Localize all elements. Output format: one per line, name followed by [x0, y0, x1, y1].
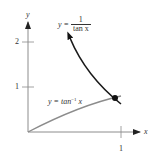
- y-axis-label: y: [26, 11, 30, 19]
- x-axis-label: x: [144, 128, 148, 136]
- arctan-label-suffix: x: [77, 97, 83, 106]
- arctan-label-prefix: y = tan: [48, 97, 71, 106]
- cot-label-denominator: tan x: [71, 25, 91, 33]
- tick-label-y-2: 2: [15, 38, 19, 46]
- tick-label-x-1: 1: [119, 145, 123, 153]
- cot-curve: [70, 38, 121, 104]
- tick-label-y-1: 1: [15, 83, 19, 91]
- cot-curve-label: y = 1 tan x: [58, 16, 91, 33]
- cot-label-numerator: 1: [77, 16, 85, 24]
- cot-label-prefix: y =: [58, 20, 69, 29]
- intersection-point: [112, 95, 118, 101]
- arctan-curve-label: y = tan−1 x: [48, 97, 82, 106]
